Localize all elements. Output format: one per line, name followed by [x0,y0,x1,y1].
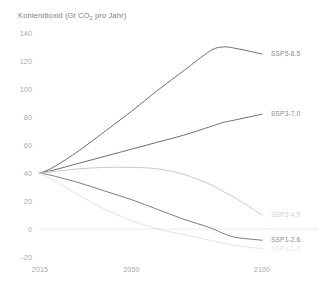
series-label-ssp3-7-0: SSP3-7.0 [271,110,300,117]
series-line-ssp2-4-5 [40,167,262,215]
series-line-ssp1-1-9 [40,173,262,249]
series-label-ssp1-1-9: SSP1-1.9 [271,245,300,252]
chart-container: Kohlendioxid (Gt CO2 pro Jahr) 140120100… [0,0,321,282]
y-tick-label: 100 [8,85,32,94]
y-tick-label: 40 [8,169,32,178]
y-tick-label: 0 [8,225,32,234]
x-tick-label: 2015 [20,265,60,274]
series-label-ssp1-2-6: SSP1-2.6 [271,236,300,243]
series-line-ssp5-8-5 [40,47,262,173]
series-line-ssp1-2-6 [40,173,262,240]
y-tick-label: -20 [8,253,32,262]
series-lines [40,47,262,249]
y-tick-label: 120 [8,57,32,66]
y-tick-label: 140 [8,29,32,38]
series-label-ssp5-8-5: SSP5-8.5 [271,50,300,57]
series-line-ssp3-7-0 [40,114,262,173]
y-tick-label: 80 [8,113,32,122]
x-tick-label: 2100 [242,265,282,274]
x-tick-label: 2050 [111,265,151,274]
y-tick-label: 60 [8,141,32,150]
y-tick-label: 20 [8,197,32,206]
series-label-ssp2-4-5: SSP2-4.5 [271,211,300,218]
